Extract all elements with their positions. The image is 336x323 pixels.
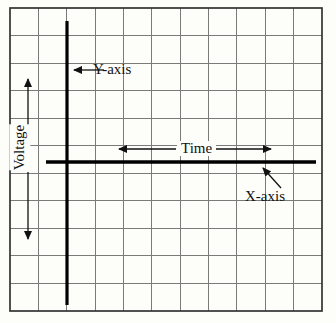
graph-drawing <box>0 0 336 323</box>
x-axis-label: X-axis <box>245 189 285 204</box>
oscilloscope-graph-figure: Y-axis X-axis Time Voltage <box>0 0 336 323</box>
grid-background <box>10 8 322 311</box>
voltage-axis-label: Voltage <box>9 125 30 171</box>
time-axis-label: Time <box>177 141 216 156</box>
y-axis-label: Y-axis <box>93 62 131 77</box>
